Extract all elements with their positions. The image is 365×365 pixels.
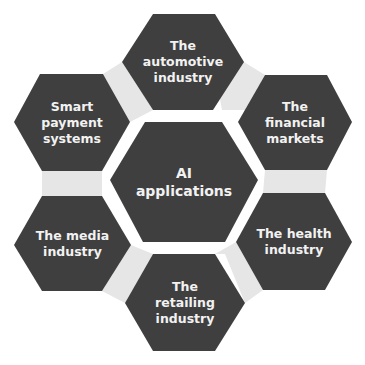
node-label-automotive: The automotive industry <box>122 14 244 110</box>
connector-financial-health <box>263 170 327 193</box>
node-label-retailing: The retailing industry <box>125 254 245 351</box>
center-label: AI applications <box>110 122 258 242</box>
ai-applications-diagram: The automotive industry The financial ma… <box>0 0 365 365</box>
connector-media-payment <box>42 171 102 196</box>
